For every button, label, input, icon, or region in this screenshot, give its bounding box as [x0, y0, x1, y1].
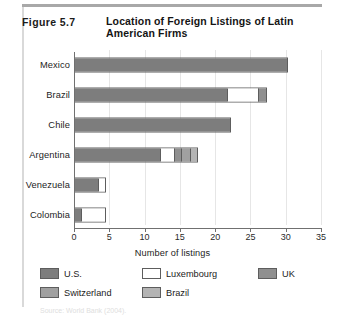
x-tick-label: 30	[274, 232, 298, 242]
stacked-bar[interactable]	[74, 88, 267, 103]
chart-legend: U.S.LuxembourgUKSwitzerlandBrazil	[0, 266, 345, 302]
bar-segment[interactable]	[75, 89, 227, 102]
legend-label: Brazil	[166, 288, 189, 298]
category-label-box: Colombia	[0, 200, 70, 230]
x-tick-label: 35	[309, 232, 333, 242]
category-label: Mexico	[2, 60, 70, 70]
bar-segment[interactable]	[160, 149, 174, 162]
x-axis-title: Number of listings	[0, 248, 345, 258]
category-label-box: Argentina	[0, 140, 70, 170]
stacked-bar[interactable]	[74, 178, 106, 193]
bar-segment[interactable]	[174, 149, 181, 162]
stacked-bar[interactable]	[74, 118, 231, 133]
bar-segment[interactable]	[258, 89, 265, 102]
legend-label: UK	[282, 269, 295, 279]
bar-segment[interactable]	[227, 89, 259, 102]
legend-item[interactable]: UK	[258, 266, 295, 281]
stacked-bar[interactable]	[74, 208, 106, 223]
y-axis-line	[74, 52, 75, 228]
legend-item[interactable]: Brazil	[142, 285, 189, 300]
source-note: Source: World Bank (2004).	[40, 307, 320, 317]
bar-row: Venezuela	[0, 170, 345, 200]
figure-number: Figure 5.7	[22, 16, 76, 28]
stacked-bar[interactable]	[74, 148, 198, 163]
legend-swatch	[142, 268, 161, 279]
bar-row: Mexico	[0, 50, 345, 80]
legend-label: Luxembourg	[166, 269, 217, 279]
legend-label: Switzerland	[64, 288, 112, 298]
legend-swatch	[142, 287, 161, 298]
category-label: Colombia	[2, 210, 70, 220]
bar-segment[interactable]	[75, 179, 98, 192]
legend-swatch	[40, 268, 59, 279]
legend-item[interactable]: Switzerland	[40, 285, 112, 300]
category-label-box: Chile	[0, 110, 70, 140]
bar-segment[interactable]	[75, 119, 230, 132]
bar-segment[interactable]	[75, 59, 287, 72]
bar-segment[interactable]	[75, 149, 160, 162]
category-label: Brazil	[2, 90, 70, 100]
bar-row: Brazil	[0, 80, 345, 110]
chart-plot-area: MexicoBrazilChileArgentinaVenezuelaColom…	[0, 50, 345, 230]
legend-swatch	[40, 287, 59, 298]
bar-segment[interactable]	[190, 149, 197, 162]
bar-segment[interactable]	[181, 149, 190, 162]
x-tick-label: 5	[97, 232, 121, 242]
x-tick-label: 10	[133, 232, 157, 242]
legend-label: U.S.	[64, 269, 82, 279]
legend-swatch	[258, 268, 277, 279]
category-label: Argentina	[2, 150, 70, 160]
figure-header: Figure 5.7 Location of Foreign Listings …	[22, 6, 322, 48]
x-tick-label: 0	[62, 232, 86, 242]
bar-row: Colombia	[0, 200, 345, 230]
stacked-bar[interactable]	[74, 58, 288, 73]
category-label: Chile	[2, 120, 70, 130]
category-label: Venezuela	[2, 180, 70, 190]
bar-segment[interactable]	[98, 179, 105, 192]
legend-item[interactable]: U.S.	[40, 266, 82, 281]
bar-segment[interactable]	[81, 209, 105, 222]
category-label-box: Mexico	[0, 50, 70, 80]
category-label-box: Brazil	[0, 80, 70, 110]
bar-row: Chile	[0, 110, 345, 140]
x-tick-label: 25	[238, 232, 262, 242]
x-axis-tick-labels: 05101520253035	[0, 232, 345, 246]
x-tick-label: 20	[203, 232, 227, 242]
category-label-box: Venezuela	[0, 170, 70, 200]
bar-row: Argentina	[0, 140, 345, 170]
legend-item[interactable]: Luxembourg	[142, 266, 217, 281]
figure-title: Location of Foreign Listings of Latin Am…	[106, 15, 311, 40]
x-tick-label: 15	[168, 232, 192, 242]
